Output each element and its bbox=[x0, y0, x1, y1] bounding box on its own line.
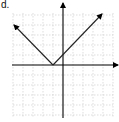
absolute-value-graph bbox=[0, 0, 119, 122]
right-branch bbox=[53, 14, 102, 65]
